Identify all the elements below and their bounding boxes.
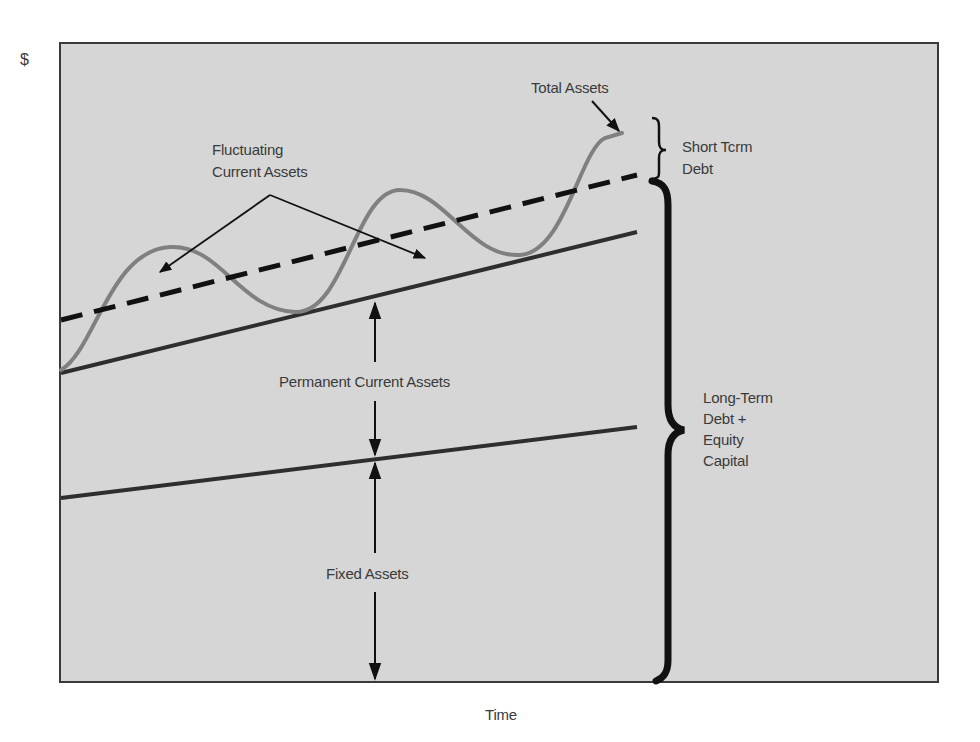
fixed-assets-label: Fixed Assets [326, 564, 409, 583]
total-assets-label: Total Assets [531, 78, 609, 97]
x-axis-label: Time [485, 705, 517, 724]
financing-diagram: $ Time Total Assets Fluctuating Current … [0, 0, 980, 742]
short-term-label-line-2: Debt [682, 159, 752, 178]
diagram-canvas [0, 0, 980, 742]
fluctuating-label-line-2: Current Assets [212, 162, 308, 181]
long-term-label-line-4: Capital [703, 451, 773, 470]
long-term-label-line-1: Long-Term [703, 388, 773, 407]
fluctuating-current-assets-label: Fluctuating Current Assets [212, 140, 308, 181]
long-term-capital-label: Long-Term Debt + Equity Capital [703, 388, 773, 470]
permanent-current-assets-label: Permanent Current Assets [279, 372, 450, 391]
long-term-label-line-3: Equity [703, 430, 773, 449]
fluctuating-label-line-1: Fluctuating [212, 140, 308, 159]
plot-panel [60, 43, 938, 682]
y-axis-label: $ [20, 50, 29, 69]
short-term-label-line-1: Short Tcrm [682, 137, 752, 156]
long-term-label-line-2: Debt + [703, 409, 773, 428]
short-term-debt-label: Short Tcrm Debt [682, 137, 752, 178]
